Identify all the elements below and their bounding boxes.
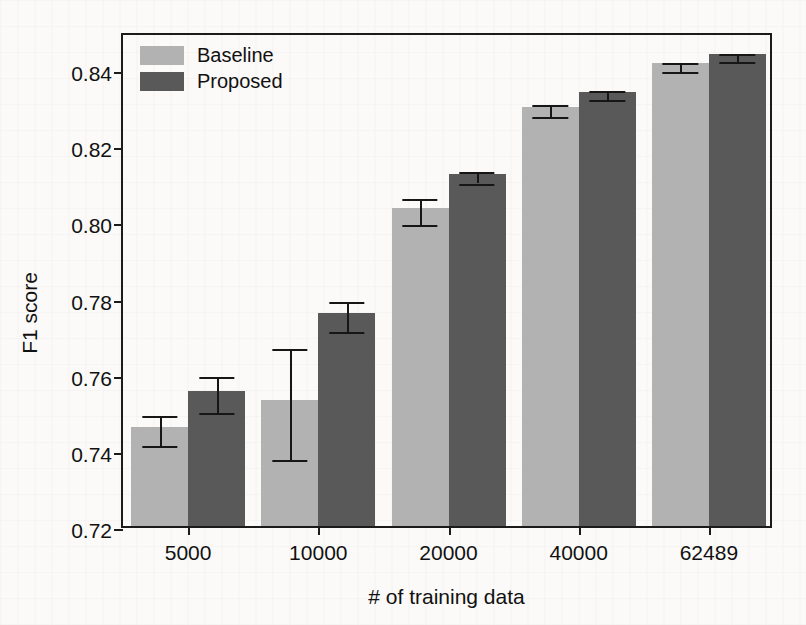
y-tick-mark (114, 148, 123, 150)
x-axis-title: # of training data (121, 585, 772, 609)
chart-legend: BaselineProposed (140, 45, 283, 91)
error-bar-cap-upper (402, 199, 437, 201)
y-tick-mark (114, 224, 123, 226)
error-bar-cap-lower (199, 413, 234, 415)
error-bar-cap-lower (663, 72, 698, 74)
x-tick-label: 20000 (419, 542, 477, 563)
y-tick-label: 0.82 (71, 139, 112, 160)
error-bar-line (217, 377, 219, 414)
error-bar-cap-lower (533, 117, 568, 119)
error-bar-cap-upper (459, 172, 494, 174)
x-tick-label: 10000 (289, 542, 347, 563)
legend-item-proposed[interactable]: Proposed (140, 71, 283, 91)
bar-proposed-20000 (449, 174, 506, 526)
y-tick-mark (114, 377, 123, 379)
y-tick-mark (114, 453, 123, 455)
x-tick-mark (709, 526, 711, 535)
x-tick-label: 5000 (165, 542, 212, 563)
bar-proposed-62489 (709, 54, 766, 526)
y-tick-label: 0.74 (71, 443, 112, 464)
y-tick-mark (114, 529, 123, 531)
y-tick-label: 0.78 (71, 291, 112, 312)
bar-proposed-10000 (318, 313, 375, 526)
bar-baseline-20000 (392, 208, 449, 526)
y-tick-label: 0.84 (71, 63, 112, 84)
error-bar-cap-lower (272, 460, 307, 462)
legend-label-proposed: Proposed (197, 71, 283, 91)
x-tick-label: 40000 (549, 542, 607, 563)
error-bar-cap-lower (720, 62, 755, 64)
legend-label-baseline: Baseline (197, 45, 274, 65)
error-bar-cap-upper (142, 416, 177, 418)
error-bar-cap-upper (329, 302, 364, 304)
plot-area: 0.720.740.760.780.800.820.84 50001000020… (123, 35, 770, 526)
x-tick-mark (579, 526, 581, 535)
y-tick-mark (114, 301, 123, 303)
y-tick-label: 0.76 (71, 367, 112, 388)
figure-page: F1 score 0.720.740.760.780.800.820.84 50… (0, 0, 806, 625)
y-tick-label: 0.80 (71, 215, 112, 236)
error-bar-cap-lower (142, 446, 177, 448)
error-bar-cap-upper (272, 349, 307, 351)
y-axis-title: F1 score (18, 272, 42, 354)
x-tick-label: 62489 (680, 542, 738, 563)
legend-swatch-baseline (140, 46, 184, 65)
y-tick-mark (114, 72, 123, 74)
error-bar-line (290, 349, 292, 459)
error-bar-line (160, 416, 162, 446)
plot-frame: 0.720.740.760.780.800.820.84 50001000020… (121, 33, 772, 528)
x-tick-mark (318, 526, 320, 535)
x-tick-mark (449, 526, 451, 535)
bar-baseline-62489 (652, 63, 709, 526)
error-bar-cap-lower (329, 332, 364, 334)
bar-baseline-40000 (522, 107, 579, 526)
error-bar-cap-lower (459, 184, 494, 186)
error-bar-line (347, 302, 349, 332)
error-bar-cap-upper (533, 105, 568, 107)
error-bar-cap-upper (720, 54, 755, 56)
y-tick-label: 0.72 (71, 520, 112, 541)
bar-proposed-40000 (579, 92, 636, 526)
legend-swatch-proposed (140, 72, 184, 91)
x-tick-mark (188, 526, 190, 535)
error-bar-cap-lower (590, 100, 625, 102)
error-bar-cap-upper (199, 377, 234, 379)
error-bar-cap-upper (663, 63, 698, 65)
error-bar-cap-upper (590, 91, 625, 93)
error-bar-cap-lower (402, 225, 437, 227)
error-bar-line (420, 199, 422, 226)
legend-item-baseline[interactable]: Baseline (140, 45, 283, 65)
